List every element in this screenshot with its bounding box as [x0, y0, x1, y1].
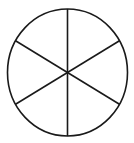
- figure-container: Sector 1Sector 2Sector 3Sector 4Sector 5…: [0, 0, 134, 143]
- circle-sectors-diagram: Sector 1Sector 2Sector 3Sector 4Sector 5…: [0, 0, 134, 143]
